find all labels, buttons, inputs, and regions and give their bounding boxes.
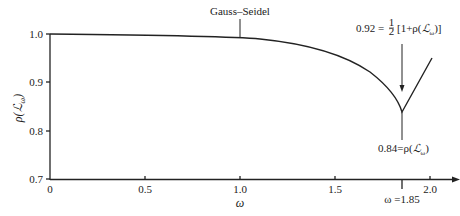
svg-text:ρ(ℒω): ρ(ℒω) [11,94,27,123]
spectral-radius-curve [50,34,432,112]
minimum-label: 0.84=ρ(ℒω) [378,142,429,157]
x-tick-label: 0.5 [138,183,152,195]
y-tick-label: 0.7 [29,173,43,185]
y-tick-label: 1.0 [29,28,43,40]
svg-text:[1+ρ(ℒω)]: [1+ρ(ℒω)] [397,22,441,37]
x-axis-label: ω [236,196,244,210]
x-tick-label: 1.0 [233,183,247,195]
y-axis-label: ρ(ℒω) [11,94,27,123]
omega-optimal-label: ω =1.85 [384,193,420,205]
x-axis [50,176,452,189]
gauss-seidel-label: Gauss–Seidel [210,5,270,17]
y-tick-label: 0.9 [29,76,43,88]
x-tick-label: 2.0 [423,183,437,195]
x-axis-arrow-icon [452,177,460,183]
x-tick-label: 1.5 [328,183,342,195]
svg-text:0.92 =: 0.92 = [356,22,384,34]
y-tick-label: 0.8 [29,125,43,137]
spectral-radius-chart: 1.0 0.9 0.8 0.7 0 0.5 1.0 1.5 2.0 ω ρ(ℒω… [0,0,460,216]
chart-canvas: 1.0 0.9 0.8 0.7 0 0.5 1.0 1.5 2.0 ω ρ(ℒω… [0,0,460,216]
x-tick-label: 0 [47,183,53,195]
optimal-average-annotation: 0.92 = 1 2 [1+ρ(ℒω)] [356,16,441,37]
y-axis [46,34,50,180]
down-arrow-icon [400,85,405,92]
svg-text:2: 2 [389,25,395,37]
